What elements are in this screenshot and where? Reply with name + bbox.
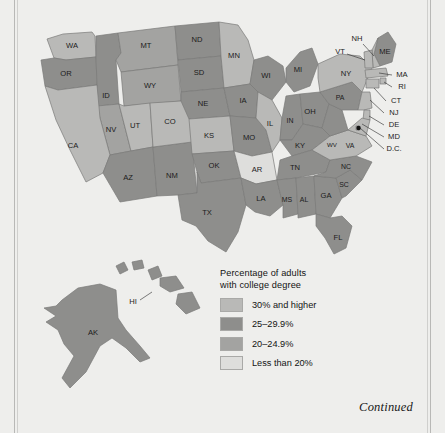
state-label-ME: ME (379, 47, 390, 56)
state-label-NY: NY (341, 69, 352, 78)
state-label-AZ: AZ (123, 173, 133, 182)
legend-title-line2: with college degree (220, 280, 370, 292)
state-label-WV: WV (327, 141, 338, 148)
legend-entry: Less than 20% (220, 357, 370, 370)
state-label-AL: AL (300, 196, 309, 203)
state-label-NM: NM (166, 171, 178, 180)
state-label-IL: IL (267, 119, 273, 128)
state-label-LA: LA (256, 194, 266, 203)
state-label-WI: WI (261, 71, 270, 80)
state-label-MI: MI (294, 65, 302, 74)
state-label-PA: PA (336, 94, 345, 101)
legend-swatch (220, 337, 243, 351)
state-label-ID: ID (102, 91, 110, 100)
hi-island-4 (160, 276, 184, 292)
state-label-FL: FL (334, 233, 343, 242)
state-label-VA: VA (346, 142, 355, 149)
map-legend: Percentage of adults with college degree… (220, 268, 370, 376)
state-RI (380, 78, 386, 84)
continued-label: Continued (359, 400, 413, 415)
leader-line-DE (369, 116, 384, 125)
legend-entries: 30% and higher25–29.9%20–24.9%Less than … (220, 298, 370, 370)
state-label-SD: SD (194, 68, 205, 77)
legend-title-line1: Percentage of adults (220, 268, 370, 280)
state-label-MD: MD (388, 132, 400, 141)
state-label-RI: RI (398, 82, 406, 91)
state-label-CO: CO (164, 117, 175, 126)
state-label-AR: AR (252, 165, 263, 174)
state-label-NJ: NJ (389, 108, 398, 117)
legend-title: Percentage of adults with college degree (220, 268, 370, 291)
state-label-VT: VT (335, 47, 345, 56)
state-label-MN: MN (228, 51, 240, 60)
legend-entry: 30% and higher (220, 298, 370, 311)
state-label-MA: MA (396, 70, 408, 79)
state-label-SC: SC (339, 181, 349, 188)
state-label-KS: KS (204, 131, 214, 140)
state-CT (366, 79, 379, 88)
figure-page: .c30plus{fill:#b9b9b7;} .c25{fill:#8e8e8… (0, 0, 445, 433)
state-label-KY: KY (295, 141, 305, 150)
leader-line-RI (384, 82, 392, 87)
state-label-DE: DE (389, 120, 400, 129)
state-label-IN: IN (287, 117, 294, 124)
state-label-MT: MT (141, 41, 152, 50)
legend-label: 30% and higher (252, 300, 316, 310)
state-label-NV: NV (106, 125, 117, 134)
state-label-NH: NH (352, 34, 363, 43)
state-label-OR: OR (60, 69, 72, 78)
state-label-WY: WY (144, 81, 156, 90)
legend-entry: 20–24.9% (220, 337, 370, 350)
state-label-TN: TN (290, 163, 300, 172)
hi-island-1 (116, 262, 128, 274)
hi-island-5 (176, 292, 200, 314)
leader-line-CT (374, 88, 386, 101)
state-label-AK: AK (88, 328, 98, 337)
state-label-MO: MO (243, 133, 255, 142)
state-label-OK: OK (209, 161, 220, 170)
state-label-NE: NE (198, 99, 209, 108)
state-label-GA: GA (321, 191, 333, 200)
state-label-WA: WA (66, 41, 79, 50)
state-VT (364, 50, 373, 68)
legend-entry: 25–29.9% (220, 318, 370, 331)
state-label-CT: CT (391, 96, 401, 105)
state-label-CA: CA (68, 141, 79, 150)
state-label-TX: TX (202, 208, 212, 217)
leader-line-HI (140, 292, 152, 300)
state-label-UT: UT (130, 121, 140, 130)
state-label-IA: IA (239, 96, 247, 105)
legend-label: Less than 20% (252, 358, 313, 368)
state-NM (153, 142, 197, 196)
state-label-MS: MS (282, 196, 293, 203)
legend-swatch (220, 356, 243, 370)
legend-label: 25–29.9% (252, 319, 293, 329)
state-label-OH: OH (304, 107, 315, 116)
state-label-DC: D.C. (386, 144, 401, 153)
state-label-ND: ND (192, 35, 203, 44)
legend-swatch (220, 317, 243, 331)
dc-marker-dot (356, 126, 360, 130)
state-label-NC: NC (341, 163, 351, 170)
state-label-HI: HI (129, 297, 137, 306)
hi-island-2 (132, 260, 144, 270)
legend-label: 20–24.9% (252, 339, 293, 349)
state-MA (365, 68, 388, 78)
legend-swatch (220, 298, 243, 312)
